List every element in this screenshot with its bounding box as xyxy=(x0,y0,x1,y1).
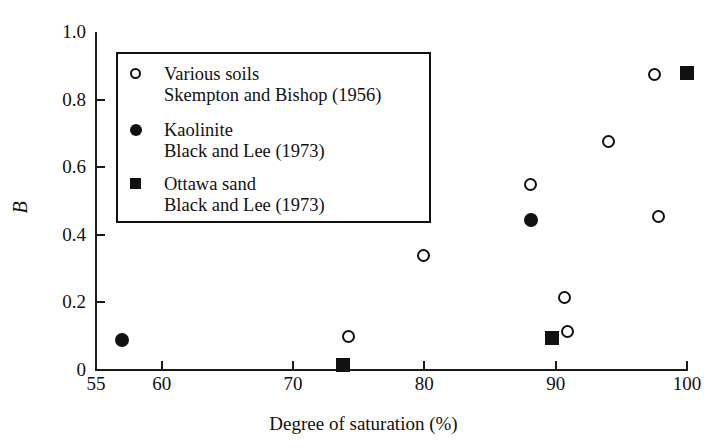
data-point xyxy=(524,213,538,227)
legend-label-line2: Black and Lee (1973) xyxy=(164,141,325,162)
data-point xyxy=(558,291,571,304)
y-tick-label: 0.8 xyxy=(32,90,86,109)
data-point xyxy=(336,358,350,372)
data-point xyxy=(115,333,129,347)
data-point xyxy=(602,135,615,148)
data-point xyxy=(680,66,694,80)
x-axis-line xyxy=(96,369,688,371)
data-point xyxy=(648,68,661,81)
x-tick-label: 80 xyxy=(394,374,454,393)
y-tick-label: 1.0 xyxy=(32,22,86,41)
legend-label: Ottawa sandBlack and Lee (1973) xyxy=(164,174,325,216)
data-point xyxy=(561,325,574,338)
filled-square-icon xyxy=(130,178,141,189)
x-tick-label: 70 xyxy=(263,374,323,393)
x-axis-label: Degree of saturation (%) xyxy=(0,413,727,435)
y-axis-line xyxy=(95,32,97,371)
x-tick xyxy=(161,361,163,369)
y-axis-label: B xyxy=(9,201,32,213)
open-circle-icon xyxy=(130,68,141,79)
filled-circle-icon xyxy=(130,124,142,136)
y-tick xyxy=(96,234,105,236)
data-point xyxy=(524,178,537,191)
legend-label-line2: Skempton and Bishop (1956) xyxy=(164,85,381,106)
y-tick-label: 0.2 xyxy=(32,292,86,311)
legend-label-line1: Kaolinite xyxy=(164,120,233,140)
legend-label: Various soilsSkempton and Bishop (1956) xyxy=(164,64,381,106)
y-tick xyxy=(96,166,105,168)
legend-label-line1: Ottawa sand xyxy=(164,174,256,194)
data-point xyxy=(417,249,430,262)
x-tick xyxy=(423,361,425,369)
scatter-chart: 5560708090100 00.20.40.60.81.0 Degree of… xyxy=(0,0,727,448)
x-tick-label: 60 xyxy=(132,374,192,393)
x-tick xyxy=(95,361,97,369)
data-point xyxy=(652,210,665,223)
x-tick xyxy=(292,361,294,369)
legend-label-line1: Various soils xyxy=(164,64,259,84)
y-tick-label: 0 xyxy=(32,360,86,379)
legend-label: KaoliniteBlack and Lee (1973) xyxy=(164,120,325,162)
x-tick xyxy=(686,361,688,369)
y-tick-label: 0.4 xyxy=(32,225,86,244)
x-tick xyxy=(555,361,557,369)
data-point xyxy=(342,330,355,343)
y-tick xyxy=(96,99,105,101)
legend-label-line2: Black and Lee (1973) xyxy=(164,195,325,216)
chart-legend: Various soilsSkempton and Bishop (1956)K… xyxy=(116,52,431,223)
y-tick-label: 0.6 xyxy=(32,157,86,176)
data-point xyxy=(545,331,559,345)
y-tick xyxy=(96,301,105,303)
x-tick-label: 90 xyxy=(526,374,586,393)
x-tick-label: 100 xyxy=(657,374,717,393)
